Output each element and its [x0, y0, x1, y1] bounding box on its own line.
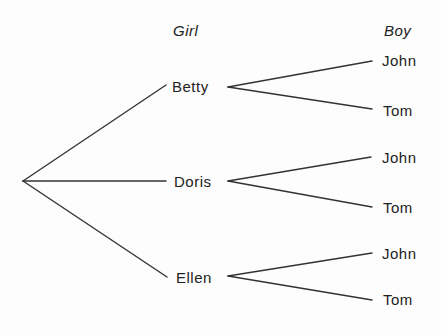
edge-doris-to-tom	[228, 181, 372, 207]
node-boy-tom: Tom	[383, 102, 413, 120]
tree-edges	[0, 0, 441, 336]
edge-root-to-betty	[23, 85, 166, 181]
edge-doris-to-john	[228, 157, 371, 181]
edge-ellen-to-john	[228, 253, 372, 276]
edge-betty-to-tom	[228, 87, 372, 109]
node-boy-john: John	[382, 245, 417, 263]
edge-betty-to-john	[228, 61, 372, 87]
column-header-boy: Boy	[384, 22, 411, 39]
column-header-girl: Girl	[173, 22, 198, 39]
node-boy-tom: Tom	[383, 199, 413, 217]
node-boy-john: John	[382, 149, 417, 167]
node-girl-doris: Doris	[174, 173, 212, 191]
tree-diagram: Girl Boy Betty Doris Ellen John Tom John…	[0, 0, 441, 336]
edge-ellen-to-tom	[228, 276, 372, 300]
node-boy-tom: Tom	[383, 291, 413, 309]
node-boy-john: John	[382, 52, 417, 70]
node-girl-ellen: Ellen	[176, 269, 212, 287]
node-girl-betty: Betty	[172, 78, 209, 96]
edge-root-to-ellen	[23, 181, 167, 277]
